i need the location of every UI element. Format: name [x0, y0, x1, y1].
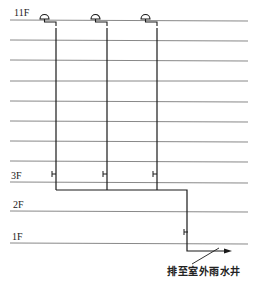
floor-line [10, 101, 248, 102]
floor-label-1f: 1F [12, 232, 23, 242]
floor-line [10, 121, 248, 122]
check-valves [52, 171, 188, 235]
risers [56, 28, 157, 190]
floor-label-3f: 3F [11, 171, 22, 181]
floor-line-1f [10, 243, 248, 244]
floor-line [10, 161, 248, 162]
floor-lines [10, 20, 248, 244]
floor-line [10, 60, 248, 61]
outlet-label: 排至室外雨水井 [167, 263, 241, 278]
floor-line-3f [10, 182, 248, 183]
flow-arrow-icon [224, 249, 232, 254]
drainage-diagram [0, 0, 255, 296]
floor-line [10, 141, 248, 142]
floor-line-11f [10, 20, 248, 21]
floor-label-2f: 2F [13, 200, 24, 210]
floor-line-2f [10, 211, 248, 212]
floor-label-11f: 11F [14, 8, 29, 18]
floor-line [10, 40, 248, 41]
collector-pipe [56, 190, 226, 251]
